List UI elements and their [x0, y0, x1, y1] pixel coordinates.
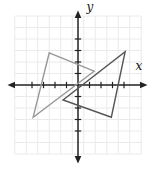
coordinate-plane: x y: [0, 0, 155, 170]
axes: [8, 11, 148, 164]
graph-figure: x y: [0, 0, 155, 170]
y-axis-arrowhead-top-icon: [75, 11, 82, 19]
x-axis-arrowhead-left-icon: [8, 82, 16, 89]
y-axis-label: y: [86, 0, 94, 14]
x-axis-arrowhead-right-icon: [140, 82, 148, 89]
y-axis-arrowhead-bottom-icon: [75, 156, 82, 164]
x-axis-label: x: [136, 59, 143, 73]
